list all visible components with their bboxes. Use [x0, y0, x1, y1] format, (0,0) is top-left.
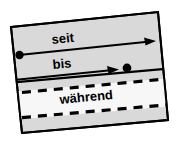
label-bis: bis — [52, 55, 72, 72]
label-seit: seit — [51, 30, 75, 47]
timeline-preposition-diagram: seit bis während — [0, 0, 179, 145]
seit-start-dot — [15, 51, 23, 59]
diagram-canvas: seit bis während — [0, 0, 179, 145]
bis-end-dot — [123, 64, 132, 73]
